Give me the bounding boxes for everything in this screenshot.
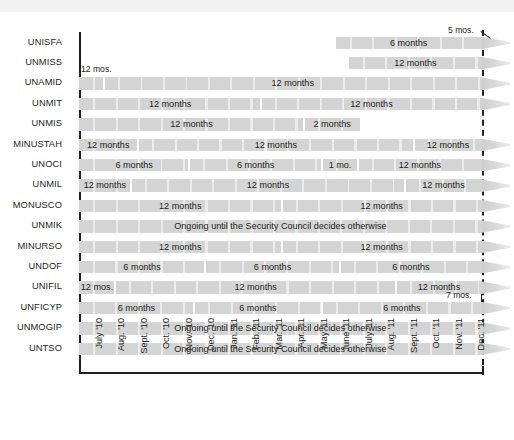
x-axis-tick: [482, 366, 484, 373]
mission-name: UNMIL: [33, 179, 62, 189]
mission-name: UNAMID: [25, 77, 62, 87]
mandate-segment: [349, 57, 482, 69]
chart-row: MINUSTAH12 months12 months12 months: [0, 135, 514, 155]
mission-name: UNMOGIP: [17, 322, 62, 332]
segment-divider: [404, 179, 406, 191]
mandate-segment: [261, 98, 482, 110]
segment-divider: [130, 179, 132, 191]
chart-row: UNMISS12 months: [0, 53, 514, 73]
mandate-segment: [358, 159, 482, 171]
continues-arrow: [482, 241, 510, 253]
x-axis-tick-label: Feb. '11: [251, 318, 261, 378]
continues-arrow: [482, 37, 510, 49]
mandate-segment: [322, 159, 358, 171]
x-axis-tick-label: July '11: [364, 318, 374, 378]
continues-arrow: [482, 343, 510, 355]
chart-row: MINURSO12 months12 months: [0, 237, 514, 257]
x-axis-tick-label: Aug. '10: [116, 318, 126, 378]
continues-arrow: [482, 179, 510, 191]
mandate-segment: [131, 179, 406, 191]
callout-tick: [481, 294, 482, 302]
continues-arrow: [482, 261, 510, 273]
continues-arrow: [482, 220, 510, 232]
mandate-segment: [282, 200, 482, 212]
chart-row: UNMIS12 months2 months: [0, 114, 514, 134]
x-axis-tick-label: Dec. '10: [206, 318, 216, 378]
mandate-segment: [79, 220, 482, 232]
mandate-segment: [79, 98, 261, 110]
segment-divider: [303, 118, 305, 130]
segment-divider: [137, 139, 139, 151]
x-axis-tick-label: Oct. '10: [161, 318, 171, 378]
mandate-segment: [205, 261, 340, 273]
mandate-segment: [282, 241, 482, 253]
mission-name: UNIFIL: [32, 281, 62, 291]
mission-name: UNMIT: [32, 98, 62, 108]
mandate-segment: [79, 302, 194, 314]
segment-divider: [103, 77, 105, 89]
x-axis-tick-label: Nov. '11: [454, 318, 464, 378]
mandate-segment: [138, 139, 415, 151]
x-axis-tick-label: Mar. '11: [274, 318, 284, 378]
callout-leader-line: [480, 31, 490, 39]
x-axis-tick-label: Oct. '11: [431, 318, 441, 378]
x-axis-tick-label: Sept. '11: [409, 318, 419, 378]
mandate-segment: [79, 159, 189, 171]
mission-name: MINUSTAH: [13, 139, 62, 149]
segment-divider: [413, 139, 415, 151]
x-axis-tick: [79, 366, 81, 373]
mandate-segment: [194, 302, 322, 314]
mandate-segment: [414, 139, 482, 151]
segment-divider: [114, 281, 116, 293]
mandate-segment: [304, 118, 360, 130]
mandate-segment: [115, 281, 396, 293]
segment-divider: [204, 261, 206, 273]
mandate-segment: [79, 118, 304, 130]
segment-divider: [281, 241, 283, 253]
mission-name: UNISFA: [28, 37, 62, 47]
mission-name: UNMIK: [32, 220, 62, 230]
duration-callout: 12 mos.: [81, 64, 112, 74]
mandate-segment: [189, 159, 322, 171]
mission-name: UNMIS: [32, 118, 62, 128]
continues-arrow: [482, 281, 510, 293]
chart-row: UNISFA6 months5 mos.: [0, 33, 514, 53]
x-axis-tick-label: Dec. '11: [476, 318, 486, 378]
mission-name: UNOCI: [32, 159, 62, 169]
segment-divider: [357, 159, 359, 171]
chart-row: UNMIL12 months12 months12 months: [0, 175, 514, 195]
chart-row: UNMIKOngoing until the Security Council …: [0, 216, 514, 236]
segment-divider: [281, 200, 283, 212]
mandate-segment: [340, 261, 482, 273]
mission-name: UNTSO: [29, 343, 62, 353]
x-axis-tick-label: Jan. '11: [229, 318, 239, 378]
x-axis-tick-label: Apr. '11: [296, 318, 306, 378]
x-axis-tick-label: Aug. '11: [386, 318, 396, 378]
mission-name: MINURSO: [17, 241, 62, 251]
chart-row: UNIFIL12 mos.12 months12 months: [0, 277, 514, 297]
mission-name: UNFICYP: [20, 302, 62, 312]
segment-divider: [321, 302, 323, 314]
mission-name: MONUSCO: [13, 200, 62, 210]
segment-divider: [339, 261, 341, 273]
continues-arrow: [482, 302, 510, 314]
continues-arrow: [482, 139, 510, 151]
mandate-segment: [79, 200, 282, 212]
x-axis-tick-label: June '11: [341, 318, 351, 378]
segment-divider: [395, 281, 397, 293]
x-axis-tick-label: Nov. '10: [184, 318, 194, 378]
mandate-segment: [79, 241, 282, 253]
mandate-segment: [104, 77, 482, 89]
segment-divider: [260, 98, 262, 110]
mandate-segment: [322, 302, 482, 314]
mandate-segment: [79, 77, 104, 89]
segment-divider: [321, 159, 323, 171]
continues-arrow: [482, 57, 510, 69]
continues-arrow: [482, 200, 510, 212]
segment-divider: [193, 302, 195, 314]
chart-row: UNOCI6 months6 months1 mo.12 months: [0, 155, 514, 175]
continues-arrow: [482, 322, 510, 334]
mandate-segment: [79, 281, 115, 293]
mandate-segment: [79, 179, 131, 191]
duration-callout: 7 mos.: [446, 290, 472, 300]
